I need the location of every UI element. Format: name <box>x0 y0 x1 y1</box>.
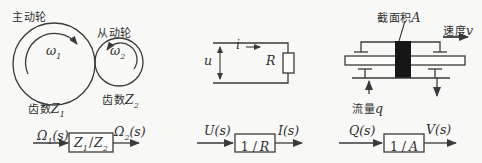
resistor-circuit-drawing <box>213 43 294 83</box>
flow-label-prefix: 流量 <box>352 103 375 115</box>
gear-output-suffix: (s) <box>129 124 145 139</box>
gear-input-suffix: (s) <box>52 128 68 143</box>
gear-block-input-label: Ω1(s) <box>37 130 69 143</box>
circuit-transfer-function-label: 1 /R <box>235 138 275 154</box>
driving-wheel-label: 主动轮 <box>12 12 47 23</box>
circuit-tf-prefix: 1 / <box>241 139 257 154</box>
hydraulic-block-input-label: Q(s) <box>349 125 375 138</box>
omega2-label: ω2 <box>110 45 125 58</box>
teeth-count-z2-symbol: Z <box>125 92 134 107</box>
current-symbol-label: i <box>236 39 240 52</box>
hydraulic-tf-symbol: A <box>409 139 418 154</box>
area-label-prefix: 截面积 <box>377 12 412 24</box>
gear-tf-numerator: Z <box>74 135 83 150</box>
velocity-label: 速度v <box>443 22 473 38</box>
gear-tf-slash: / <box>89 135 93 150</box>
circuit-tf-symbol: R <box>260 139 269 154</box>
teeth-count-z1-label: 齿数Z1 <box>28 100 65 116</box>
teeth-count-z2-prefix: 齿数 <box>102 94 125 106</box>
gear-output-symbol: Ω <box>114 124 124 139</box>
resistor-symbol-box <box>283 53 294 73</box>
omega1-symbol: ω <box>46 43 56 58</box>
omega2-symbol: ω <box>110 43 120 58</box>
hydraulic-block-output-label: V(s) <box>426 124 451 137</box>
teeth-count-z2-label: 齿数Z2 <box>102 91 139 107</box>
area-symbol: A <box>412 10 421 25</box>
textbook-figure-canvas: 主动轮 从动轮 ω1 ω2 齿数Z1 齿数Z2 Ω1(s) Z1/Z2 Ω2(s… <box>0 0 482 163</box>
voltage-symbol-label: u <box>204 55 212 68</box>
teeth-count-z2-subscript: 2 <box>134 101 139 110</box>
omega1-subscript: 1 <box>56 52 61 61</box>
circuit-wires <box>213 43 288 83</box>
gear-block-output-label: Ω2(s) <box>114 126 146 139</box>
teeth-count-z1-subscript: 1 <box>60 110 65 119</box>
teeth-count-z1-symbol: Z <box>51 101 60 116</box>
gear-tf-denominator: Z <box>94 135 103 150</box>
gear-transfer-function-label: Z1/Z2 <box>69 137 113 150</box>
flow-symbol: q <box>375 101 383 116</box>
hydraulic-transfer-function-label: 1 /A <box>384 138 424 154</box>
gear-tf-denominator-subscript: 2 <box>103 144 108 153</box>
velocity-symbol: v <box>466 23 473 38</box>
omega2-subscript: 2 <box>120 52 125 61</box>
hydraulic-tf-prefix: 1 / <box>390 139 406 154</box>
driven-wheel-label: 从动轮 <box>97 28 132 39</box>
resistor-symbol-label: R <box>266 55 275 68</box>
velocity-label-prefix: 速度 <box>443 25 466 37</box>
cross-section-area-label: 截面积A <box>377 9 421 25</box>
piston-cross-section <box>395 41 411 78</box>
gear-tf-numerator-subscript: 1 <box>83 144 88 153</box>
circuit-block-input-label: U(s) <box>204 125 231 138</box>
omega1-label: ω1 <box>46 45 61 58</box>
teeth-count-z1-prefix: 齿数 <box>28 103 51 115</box>
flow-rate-label: 流量q <box>352 100 383 116</box>
circuit-block-output-label: I(s) <box>278 125 299 138</box>
gear-input-symbol: Ω <box>37 128 47 143</box>
